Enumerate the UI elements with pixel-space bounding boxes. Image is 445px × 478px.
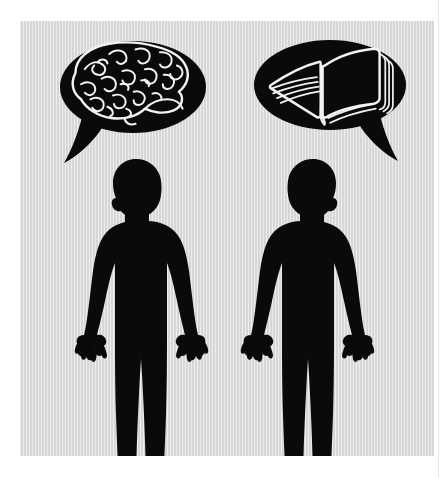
illustration-canvas: Two silhouetted people with thought bubb… bbox=[0, 0, 445, 478]
left-bubble-tail bbox=[64, 109, 107, 163]
right-edge-rule bbox=[438, 0, 439, 478]
right-bubble bbox=[254, 40, 406, 161]
scene-svg bbox=[20, 21, 434, 456]
illustration-panel: Two silhouetted people with thought bubb… bbox=[20, 21, 434, 456]
right-bubble-tail bbox=[355, 107, 398, 161]
right-person-silhouette bbox=[241, 159, 375, 456]
right-figure-group bbox=[241, 40, 406, 456]
left-person-silhouette bbox=[75, 159, 209, 456]
left-figure-group bbox=[60, 41, 208, 456]
left-bubble bbox=[60, 41, 206, 163]
